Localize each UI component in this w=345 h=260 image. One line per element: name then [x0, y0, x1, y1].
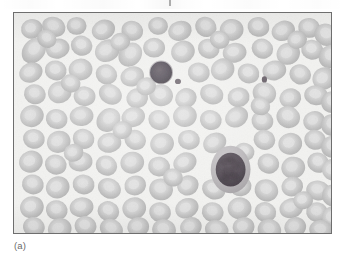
scan-artifact-strip — [0, 0, 345, 9]
figure-caption-label: (a) — [14, 240, 26, 252]
blood-smear-canvas — [14, 13, 331, 233]
blood-smear-micrograph — [13, 12, 332, 234]
film-grain-overlay — [14, 13, 331, 233]
